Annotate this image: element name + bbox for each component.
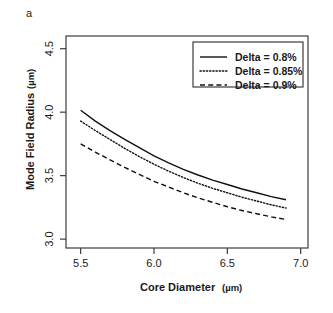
- data-curves: [81, 110, 286, 219]
- x-tick-label: 6.5: [220, 257, 235, 269]
- curve-series-0: [81, 110, 286, 199]
- y-axis-ticks: [60, 49, 66, 239]
- x-tick-label: 5.5: [73, 257, 88, 269]
- y-axis-title-text: Mode Field Radius: [24, 93, 36, 190]
- y-axis-unit-text: (µm): [25, 69, 36, 89]
- legend-label-2: Delta = 0.9%: [235, 79, 297, 91]
- x-tick-label: 6.0: [146, 257, 161, 269]
- y-tick-label: 3.5: [43, 168, 55, 183]
- y-axis-tick-labels: 3.03.54.04.5: [43, 41, 55, 247]
- x-axis-title-text: Core Diameter: [140, 281, 216, 293]
- curve-series-2: [81, 144, 286, 220]
- chart-figure: a 5.56.06.57.0 3.03.54.04.5 Core Diamete…: [0, 0, 333, 313]
- x-axis-unit-text: (µm): [222, 282, 242, 293]
- x-axis-title: Core Diameter (µm): [140, 281, 242, 293]
- line-chart: 5.56.06.57.0 3.03.54.04.5 Core Diameter …: [0, 0, 333, 313]
- x-axis-ticks: [81, 248, 301, 254]
- legend-label-1: Delta = 0.85%: [235, 65, 303, 77]
- legend-label-0: Delta = 0.8%: [235, 51, 297, 63]
- x-tick-label: 7.0: [293, 257, 308, 269]
- x-axis-tick-labels: 5.56.06.57.0: [73, 257, 308, 269]
- y-tick-label: 4.0: [43, 105, 55, 120]
- legend[interactable]: Delta = 0.8%Delta = 0.85%Delta = 0.9%: [193, 42, 303, 91]
- y-axis-title: Mode Field Radius (µm): [24, 69, 36, 190]
- curve-series-1: [81, 121, 286, 208]
- y-tick-label: 3.0: [43, 231, 55, 246]
- y-tick-label: 4.5: [43, 41, 55, 56]
